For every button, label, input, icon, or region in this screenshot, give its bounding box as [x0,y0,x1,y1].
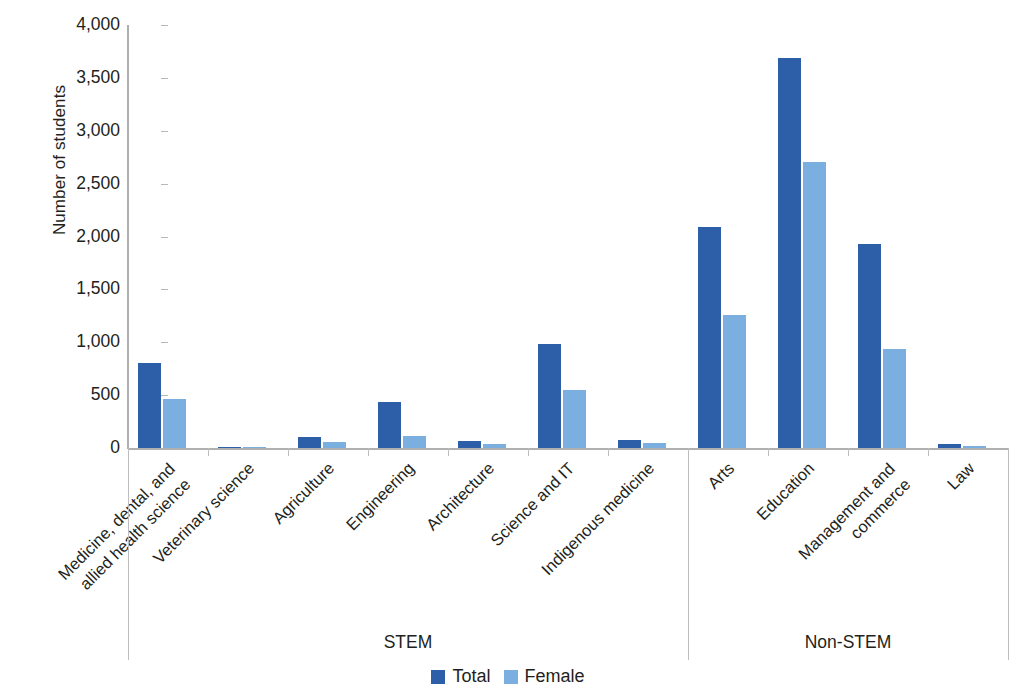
legend-item[interactable]: Female [504,666,585,687]
x-axis-label-line: Education [752,458,818,524]
group-label: Non-STEM [688,632,1008,653]
chart-legend: TotalFemale [0,666,1016,687]
x-axis-label: Architecture [422,458,498,534]
group-label: STEM [128,632,688,653]
group-bracket-line [688,456,689,660]
x-axis-label-line: Agriculture [268,458,338,528]
x-axis-label: Arts [703,458,738,493]
x-axis-label: Agriculture [268,458,338,528]
x-axis-label: Education [752,458,818,524]
x-axis-label-line: Engineering [342,458,418,534]
group-bracket-line [1008,456,1009,660]
legend-swatch-icon [431,670,445,684]
x-axis-labels: Medicine, dental, andallied health scien… [0,0,1016,692]
x-axis-label-line: Arts [703,458,738,493]
x-axis-label: Law [943,458,979,494]
x-axis-label-line: Law [943,458,979,494]
group-bracket-line [128,456,129,660]
x-axis-label-line: Architecture [422,458,498,534]
legend-swatch-icon [504,670,518,684]
legend-label: Female [525,666,585,687]
legend-item[interactable]: Total [431,666,490,687]
legend-label: Total [452,666,490,687]
x-axis-label: Engineering [342,458,418,534]
bar-chart: Number of students 4,0003,5003,0002,5002… [0,0,1016,692]
